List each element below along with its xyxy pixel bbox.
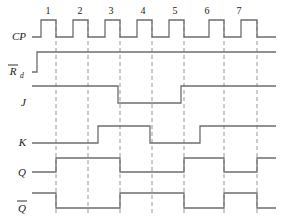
waveforms	[32, 20, 276, 208]
signal-labels: CP R d J K Q Q	[8, 30, 27, 214]
signal-label-rd-subscript: d	[20, 71, 24, 80]
signal-label-qbar: Q	[18, 202, 26, 214]
waveform-rd	[32, 52, 276, 72]
signal-label-rd: R	[9, 65, 17, 77]
clock-number-1: 1	[46, 5, 51, 16]
clock-number-4: 4	[141, 5, 146, 16]
signal-label-rd-group: R d	[8, 65, 24, 80]
waveform-j	[32, 86, 276, 103]
clock-number-5: 5	[173, 5, 178, 16]
signal-label-q: Q	[18, 166, 26, 178]
clock-number-6: 6	[205, 5, 210, 16]
timing-diagram: 1 2 3 4 5 6 7 CP R	[0, 0, 284, 217]
signal-label-qbar-group: Q	[17, 201, 27, 214]
waveform-k	[32, 126, 276, 143]
clock-number-2: 2	[78, 5, 83, 16]
clock-number-7: 7	[237, 5, 242, 16]
waveform-q	[32, 158, 276, 172]
waveform-cp	[32, 20, 276, 37]
waveform-qbar	[32, 193, 276, 208]
clock-number-labels: 1 2 3 4 5 6 7	[46, 5, 242, 16]
dashed-guide-lines	[56, 20, 257, 214]
signal-label-k: K	[18, 136, 27, 148]
timing-diagram-canvas: 1 2 3 4 5 6 7 CP R	[0, 0, 284, 217]
signal-label-j: J	[21, 96, 27, 108]
clock-number-3: 3	[109, 5, 114, 16]
signal-label-cp: CP	[12, 30, 26, 42]
